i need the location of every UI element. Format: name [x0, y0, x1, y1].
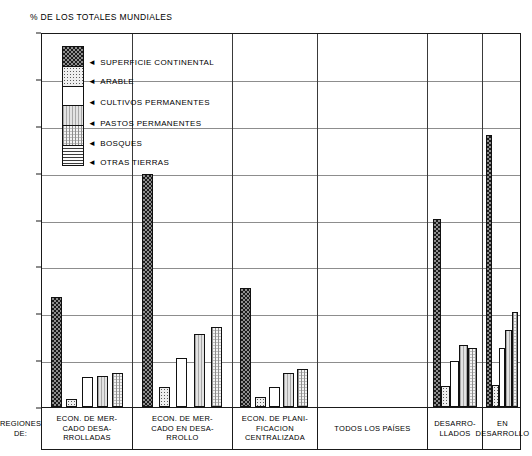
x-axis-corner-label: REGIONES DE:	[0, 408, 41, 450]
legend-item-label: SUPERFICIE CONTINENTAL	[100, 58, 214, 67]
y-tick-mark-50	[36, 173, 41, 174]
x-axis-label-econ-planificacion-centralizada: ECON. DE PLANI-FICACIONCENTRALIZADA	[232, 408, 317, 449]
bar-econ-planificacion-centralizada-pastos-permanentes	[283, 373, 294, 407]
x-axis-label-line1: EN	[476, 419, 530, 429]
bar-desarrollados-arable	[441, 386, 450, 407]
x-axis-label-desarrollados: DESARRO-LLADOS	[427, 408, 482, 449]
x-axis-label-en-desarrollo: ENDESARROLLO	[482, 408, 522, 449]
bar-econ-planificacion-centralizada-bosques	[297, 369, 308, 407]
group-separator-4	[427, 34, 428, 407]
x-axis-label-line1: ECON. DE MER-	[151, 414, 213, 424]
legend-swatch-bosques	[63, 126, 83, 146]
legend-swatch-arable	[63, 67, 83, 87]
x-axis-corner-label-line2: DE:	[14, 429, 27, 438]
x-axis-label-line2: FICACION	[242, 424, 308, 434]
legend-swatch-otras-tierras	[63, 146, 83, 165]
x-axis-label-line2: CADO EN DESA-	[151, 424, 213, 434]
bar-econ-mercado-desarrolladas-cultivos-permanentes	[82, 377, 93, 407]
bar-en-desarrollo-bosques	[512, 312, 518, 407]
gridline-20	[42, 315, 520, 316]
y-tick-mark-30	[36, 267, 41, 268]
x-axis-label-line3: RROLLO	[151, 433, 213, 443]
legend-arrow-icon: ◄	[88, 119, 96, 128]
gridline-10	[42, 362, 520, 363]
x-axis-label-line1: DESARRO-	[434, 419, 476, 429]
legend-item-bosques: ◄BOSQUES	[88, 139, 142, 148]
group-separator-2	[232, 34, 233, 407]
y-tick-mark-80	[36, 33, 41, 34]
legend-item-arable: ◄ARABLE	[88, 77, 134, 86]
legend-swatch-pastos-permanentes	[63, 106, 83, 126]
x-axis-label-line1: ECON. DE MER-	[57, 414, 118, 424]
x-axis-label-line2: LLADOS	[434, 429, 476, 439]
bar-econ-mercado-desarrolladas-arable	[66, 399, 77, 407]
bar-desarrollados-pastos-permanentes	[459, 345, 468, 407]
x-axis-corner-label-line1: REGIONES	[0, 419, 41, 428]
gridline-50	[42, 175, 520, 176]
x-axis-label-line1: TODOS LOS PAÍSES	[334, 424, 410, 434]
legend-item-pastos-permanentes: ◄PASTOS PERMANENTES	[88, 119, 201, 128]
legend-item-cultivos-permanentes: ◄CULTIVOS PERMANENTES	[88, 98, 210, 107]
bar-econ-planificacion-centralizada-cultivos-permanentes	[269, 387, 280, 407]
chart-title: % DE LOS TOTALES MUNDIALES	[30, 12, 172, 22]
bar-econ-mercado-desarrolladas-bosques	[112, 373, 123, 407]
group-separator-3	[317, 34, 318, 407]
legend-item-label: BOSQUES	[100, 139, 142, 148]
bar-econ-mercado-desarrolladas-pastos-permanentes	[97, 376, 108, 407]
x-axis-label-line3: CENTRALIZADA	[242, 433, 308, 443]
bar-econ-mercado-en-desarrollo-pastos-permanentes	[194, 334, 205, 407]
bar-econ-mercado-desarrolladas-superficie-continental	[51, 297, 62, 407]
y-tick-mark-20	[36, 314, 41, 315]
x-axis-label-line2: DESARROLLO	[476, 429, 530, 439]
legend-arrow-icon: ◄	[88, 139, 96, 148]
x-axis-label-econ-mercado-en-desarrollo: ECON. DE MER-CADO EN DESA-RROLLO	[132, 408, 232, 449]
legend-swatch-superficie-continental	[63, 47, 83, 67]
bar-econ-planificacion-centralizada-superficie-continental	[240, 288, 251, 407]
bar-desarrollados-bosques	[468, 348, 477, 407]
legend-item-label: CULTIVOS PERMANENTES	[100, 98, 210, 107]
y-tick-mark-10	[36, 361, 41, 362]
legend-swatch	[62, 46, 84, 166]
legend-arrow-icon: ◄	[88, 77, 96, 86]
bar-econ-mercado-en-desarrollo-arable	[159, 387, 170, 407]
bar-econ-mercado-en-desarrollo-bosques	[211, 327, 222, 407]
legend-arrow-icon: ◄	[88, 98, 96, 107]
bar-desarrollados-cultivos-permanentes	[450, 361, 459, 407]
plot-area	[41, 33, 521, 408]
x-axis-label-line3: RROLLADAS	[57, 433, 118, 443]
y-tick-mark-60	[36, 126, 41, 127]
legend-item-superficie-continental: ◄SUPERFICIE CONTINENTAL	[88, 58, 214, 67]
group-separator-1	[132, 34, 133, 407]
x-axis-label-line1: ECON. DE PLANI-	[242, 414, 308, 424]
y-tick-mark-70	[36, 79, 41, 80]
legend-item-otras-tierras: ◄OTRAS TIERRAS	[88, 158, 169, 167]
gridline-40	[42, 222, 520, 223]
legend-swatch-cultivos-permanentes	[63, 87, 83, 107]
legend-item-label: OTRAS TIERRAS	[100, 158, 169, 167]
bar-econ-planificacion-centralizada-arable	[255, 397, 266, 407]
legend-item-label: PASTOS PERMANENTES	[100, 119, 201, 128]
x-axis-label-econ-mercado-desarrolladas: ECON. DE MER-CADO DESA-RROLLADAS	[42, 408, 132, 449]
bar-en-desarrollo-superficie-continental	[486, 135, 492, 407]
bar-econ-mercado-en-desarrollo-cultivos-permanentes	[176, 358, 187, 407]
x-axis-label-todos-los-paises: TODOS LOS PAÍSES	[317, 408, 427, 449]
group-separator-5	[482, 34, 483, 407]
legend-arrow-icon: ◄	[88, 158, 96, 167]
x-axis-label-line2: CADO DESA-	[57, 424, 118, 434]
legend-item-label: ARABLE	[100, 77, 134, 86]
bar-econ-mercado-en-desarrollo-superficie-continental	[142, 174, 153, 407]
bar-desarrollados-superficie-continental	[433, 219, 442, 407]
legend-arrow-icon: ◄	[88, 58, 96, 67]
gridline-30	[42, 268, 520, 269]
y-tick-mark-40	[36, 220, 41, 221]
x-axis-group-labels: ECON. DE MER-CADO DESA-RROLLADASECON. DE…	[41, 408, 521, 450]
